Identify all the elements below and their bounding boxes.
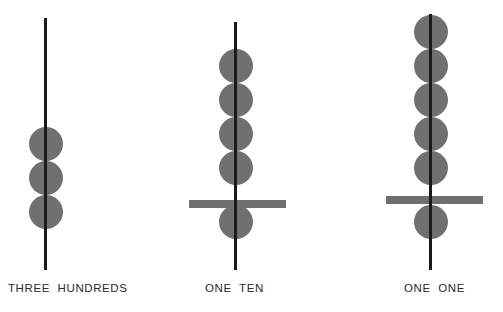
crossbar [386, 196, 483, 204]
group-label: ONE ONE [404, 283, 465, 295]
diagram-canvas: THREE HUNDREDSONE TENONE ONE [0, 0, 503, 312]
group-ones: ONE ONE [0, 0, 503, 312]
spindle-rod-overlay [429, 14, 432, 270]
